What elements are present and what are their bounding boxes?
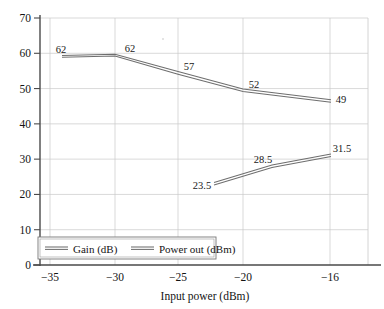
xtick-label--20: −20 (234, 271, 252, 283)
data-label-gain-2: 57 (184, 61, 195, 72)
legend-label-power-out: Power out (dBm) (159, 243, 236, 256)
ytick-label-60: 60 (20, 47, 32, 59)
y-tick-marks (34, 18, 40, 265)
data-label-pout-0: 23.5 (193, 180, 211, 191)
data-label-gain-3: 52 (249, 79, 260, 90)
ytick-label-70: 70 (20, 12, 32, 24)
data-label-pout-1: 28.5 (254, 154, 272, 165)
data-label-gain-4: 49 (336, 94, 347, 105)
chart-figure: 70 60 50 40 30 20 10 0 −35 −30 −25 −20 −… (0, 0, 384, 309)
xtick-label--35: −35 (41, 271, 59, 283)
ytick-label-20: 20 (20, 188, 32, 200)
x-axis-title: Input power (dBm) (161, 290, 250, 303)
scan-speck (162, 38, 163, 39)
xtick-label--25: −25 (169, 271, 187, 283)
chart-legend: Gain (dB) Power out (dBm) (38, 237, 236, 259)
ytick-label-10: 10 (20, 224, 32, 236)
data-label-pout-2: 31.5 (333, 143, 351, 154)
legend-label-gain: Gain (dB) (73, 243, 118, 256)
xtick-label--30: −30 (106, 271, 124, 283)
ytick-label-50: 50 (20, 83, 32, 95)
ytick-label-40: 40 (20, 118, 32, 130)
ytick-label-0: 0 (25, 259, 31, 271)
chart-canvas: 70 60 50 40 30 20 10 0 −35 −30 −25 −20 −… (0, 0, 384, 309)
xtick-label--16: −16 (321, 271, 339, 283)
data-label-gain-1: 62 (125, 43, 136, 54)
data-label-gain-0: 62 (56, 44, 67, 55)
ytick-label-30: 30 (20, 153, 32, 165)
